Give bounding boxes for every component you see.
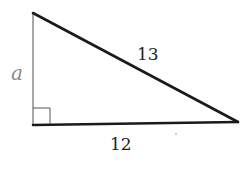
horizontal-leg [33, 122, 238, 125]
label-horizontal-leg: 12 [110, 134, 132, 154]
stray-dot [175, 133, 177, 135]
label-vertical-leg: a [11, 61, 23, 85]
right-angle-marker [33, 108, 50, 124]
right-triangle-diagram: a 13 12 [0, 0, 243, 172]
hypotenuse [33, 13, 238, 122]
label-hypotenuse: 13 [137, 44, 159, 64]
